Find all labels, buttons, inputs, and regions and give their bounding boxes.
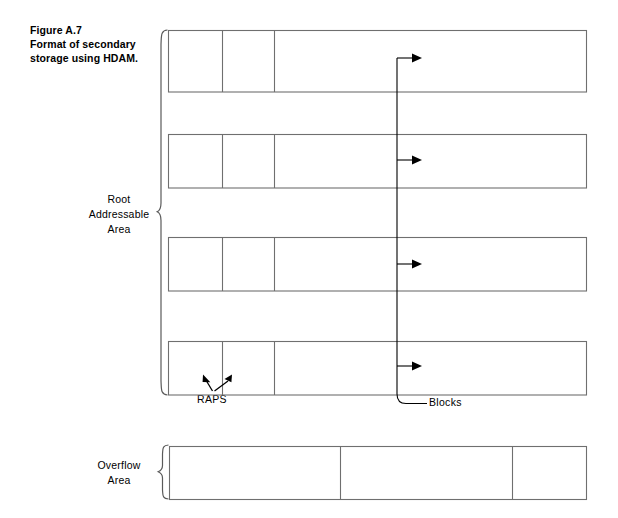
overflow-area-brace — [158, 445, 168, 499]
root-area-row — [169, 238, 587, 292]
root-area-row — [169, 31, 587, 93]
storage-block-outline — [169, 238, 587, 292]
storage-block-outline — [170, 447, 587, 500]
root-area-row — [169, 342, 587, 396]
storage-block-outline — [169, 342, 587, 396]
diagram-artwork — [0, 0, 618, 518]
root-area-brace — [157, 30, 167, 395]
storage-block-outline — [169, 31, 587, 93]
figure-canvas: Figure A.7 Format of secondary storage u… — [0, 0, 618, 518]
block-pointer-arrows — [397, 54, 422, 371]
overflow-area-row — [170, 447, 587, 500]
storage-block-outline — [169, 135, 587, 189]
root-area-row — [169, 135, 587, 189]
